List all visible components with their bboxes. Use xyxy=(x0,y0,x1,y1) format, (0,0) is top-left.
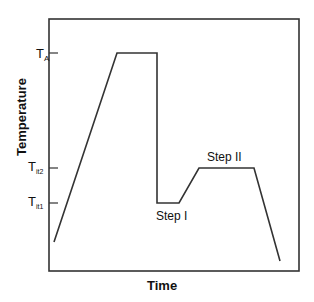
tick-label-it2: Tit2 xyxy=(28,159,43,175)
tick-label-it1: Tit1 xyxy=(28,194,43,210)
y-axis-label: Temperature xyxy=(14,78,29,156)
step-1-label: Step I xyxy=(156,209,187,223)
tick-label-ta: TA xyxy=(36,46,50,63)
temperature-time-diagram: TA Tit2 Tit1 Step I Step II Time Tempera… xyxy=(0,0,314,302)
step-2-label: Step II xyxy=(207,150,242,164)
temperature-profile-line xyxy=(54,53,280,261)
x-axis-label: Time xyxy=(147,278,177,293)
